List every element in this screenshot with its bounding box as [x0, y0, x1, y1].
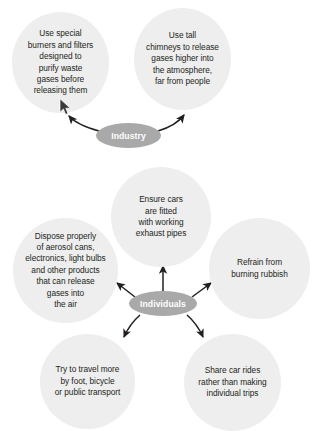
hub-industry[interactable]: Industry — [96, 123, 161, 148]
node-dispose-properly[interactable]: Dispose properly of aerosol cans, electr… — [13, 218, 118, 323]
node-refrain-burning-label: Refrain from burning rubbish — [228, 257, 290, 280]
node-burners-filters-label: Use special burners and filters designed… — [25, 28, 96, 96]
hub-industry-label: Industry — [111, 131, 146, 141]
node-exhaust-pipes[interactable]: Ensure cars are fitted with working exha… — [111, 167, 211, 267]
connector-individuals-to-share-car-rides — [187, 315, 203, 337]
connector-industry-to-burners-filters — [69, 116, 99, 131]
node-exhaust-pipes-label: Ensure cars are fitted with working exha… — [133, 194, 190, 240]
connector-individuals-to-refrain-burning — [192, 283, 211, 297]
node-tall-chimneys[interactable]: Use tall chimneys to release gases highe… — [134, 8, 231, 110]
hub-individuals-label: Individuals — [140, 299, 186, 309]
node-share-car-rides[interactable]: Share car rides rather than making indiv… — [184, 334, 281, 431]
node-refrain-burning[interactable]: Refrain from burning rubbish — [209, 218, 310, 319]
connector-industry-to-tall-chimneys — [158, 115, 184, 131]
node-share-car-rides-label: Share car rides rather than making indiv… — [195, 365, 269, 399]
hub-individuals[interactable]: Individuals — [129, 291, 197, 316]
node-dispose-properly-label: Dispose properly of aerosol cans, electr… — [22, 231, 108, 311]
node-travel-active[interactable]: Try to travel more by foot, bicycle or p… — [40, 334, 135, 429]
node-tall-chimneys-label: Use tall chimneys to release gases highe… — [143, 30, 222, 87]
connector-individuals-to-travel-active — [124, 315, 140, 337]
connector-individuals-to-dispose-properly — [117, 283, 135, 297]
node-travel-active-label: Try to travel more by foot, bicycle or p… — [52, 364, 123, 398]
mouse-cursor-icon — [59, 98, 72, 116]
